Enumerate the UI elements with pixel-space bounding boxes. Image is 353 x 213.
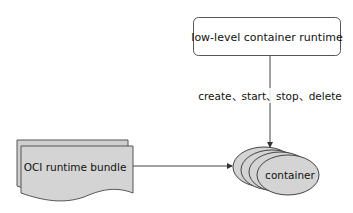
diagram-canvas: low-level container runtime create、start… — [0, 0, 353, 213]
container-node: container — [233, 147, 319, 195]
runtime-label: low-level container runtime — [191, 31, 343, 44]
bundle-node: OCI runtime bundle — [17, 140, 133, 201]
container-label: container — [265, 169, 315, 181]
bundle-label: OCI runtime bundle — [24, 161, 127, 173]
operations-label: create、start、stop、delete — [198, 90, 342, 102]
runtime-node: low-level container runtime — [191, 18, 343, 56]
bundle-front-page — [21, 146, 133, 201]
